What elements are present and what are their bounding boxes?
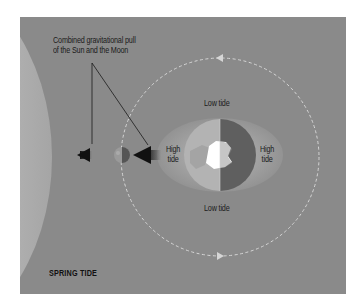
- low-tide-bottom-label: Low tide: [204, 203, 230, 213]
- callout-label: Combined gravitational pull of the Sun a…: [53, 35, 136, 55]
- high-tide-right-label: High tide: [260, 144, 274, 164]
- orbit-arrow-bottom-icon: [217, 252, 224, 260]
- high-tide-left-label: High tide: [166, 144, 180, 164]
- high-tide-right-line-2: tide: [260, 154, 274, 164]
- diagram-title: SPRING TIDE: [49, 268, 97, 278]
- sun: [20, 17, 52, 294]
- high-tide-left-line-2: tide: [166, 154, 180, 164]
- orbit-arrow-top-icon: [216, 54, 223, 62]
- moon: [114, 147, 130, 163]
- spring-tide-diagram: Combined gravitational pull of the Sun a…: [20, 17, 346, 294]
- high-tide-right-line-1: High: [260, 144, 274, 154]
- callout-line-1: Combined gravitational pull: [53, 35, 136, 45]
- earth: [184, 119, 256, 191]
- pull-arrow-sun: [77, 148, 92, 162]
- callout-line-2: of the Sun and the Moon: [53, 45, 136, 55]
- high-tide-left-line-1: High: [166, 144, 180, 154]
- callout-lines: [92, 63, 148, 145]
- diagram-graphics: [20, 17, 346, 294]
- low-tide-top-label: Low tide: [204, 98, 230, 108]
- pull-arrow-moon: [133, 146, 161, 164]
